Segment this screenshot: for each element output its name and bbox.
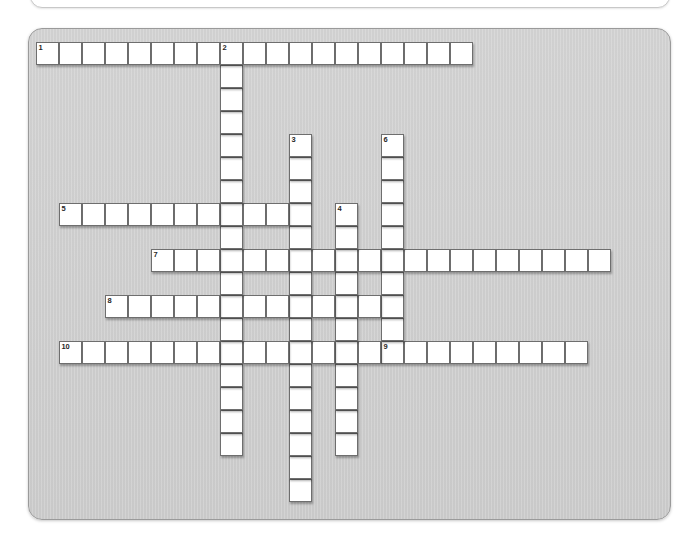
crossword-cell[interactable] bbox=[151, 295, 174, 318]
crossword-cell[interactable] bbox=[220, 65, 243, 88]
crossword-cell[interactable] bbox=[381, 249, 404, 272]
crossword-cell-numbered[interactable]: 4 bbox=[335, 203, 358, 226]
crossword-cell[interactable] bbox=[220, 295, 243, 318]
crossword-cell[interactable] bbox=[289, 364, 312, 387]
crossword-cell[interactable] bbox=[220, 249, 243, 272]
crossword-cell[interactable] bbox=[243, 203, 266, 226]
crossword-cell[interactable] bbox=[335, 295, 358, 318]
crossword-cell[interactable] bbox=[542, 341, 565, 364]
crossword-cell[interactable] bbox=[128, 341, 151, 364]
crossword-cell[interactable] bbox=[450, 341, 473, 364]
crossword-cell-numbered[interactable]: 9 bbox=[381, 341, 404, 364]
crossword-cell-numbered[interactable]: 2 bbox=[220, 42, 243, 65]
crossword-cell[interactable] bbox=[220, 433, 243, 456]
crossword-cell[interactable] bbox=[243, 249, 266, 272]
crossword-cell[interactable] bbox=[289, 157, 312, 180]
crossword-cell[interactable] bbox=[358, 249, 381, 272]
crossword-cell[interactable] bbox=[174, 42, 197, 65]
crossword-cell[interactable] bbox=[358, 341, 381, 364]
crossword-cell[interactable] bbox=[381, 272, 404, 295]
crossword-cell[interactable] bbox=[174, 203, 197, 226]
crossword-cell[interactable] bbox=[335, 433, 358, 456]
crossword-board[interactable]: 12345697810 bbox=[28, 28, 671, 520]
crossword-cell[interactable] bbox=[312, 42, 335, 65]
crossword-cell[interactable] bbox=[289, 456, 312, 479]
crossword-cell[interactable] bbox=[381, 295, 404, 318]
crossword-cell[interactable] bbox=[588, 249, 611, 272]
crossword-cell[interactable] bbox=[197, 249, 220, 272]
crossword-cell-numbered[interactable]: 1 bbox=[36, 42, 59, 65]
crossword-cell[interactable] bbox=[105, 341, 128, 364]
crossword-cell[interactable] bbox=[197, 341, 220, 364]
crossword-cell[interactable] bbox=[220, 272, 243, 295]
crossword-cell[interactable] bbox=[450, 249, 473, 272]
crossword-grid[interactable]: 12345697810 bbox=[29, 29, 671, 520]
crossword-cell-numbered[interactable]: 8 bbox=[105, 295, 128, 318]
crossword-cell[interactable] bbox=[381, 226, 404, 249]
crossword-cell[interactable] bbox=[519, 249, 542, 272]
crossword-cell[interactable] bbox=[312, 295, 335, 318]
crossword-cell[interactable] bbox=[243, 341, 266, 364]
crossword-cell[interactable] bbox=[427, 249, 450, 272]
crossword-cell[interactable] bbox=[335, 341, 358, 364]
crossword-cell[interactable] bbox=[105, 42, 128, 65]
crossword-cell[interactable] bbox=[266, 203, 289, 226]
crossword-cell[interactable] bbox=[289, 318, 312, 341]
crossword-cell[interactable] bbox=[289, 272, 312, 295]
crossword-cell[interactable] bbox=[151, 42, 174, 65]
crossword-cell[interactable] bbox=[174, 341, 197, 364]
crossword-cell[interactable] bbox=[266, 341, 289, 364]
crossword-cell[interactable] bbox=[197, 42, 220, 65]
crossword-cell[interactable] bbox=[473, 341, 496, 364]
crossword-cell[interactable] bbox=[450, 42, 473, 65]
crossword-cell[interactable] bbox=[289, 203, 312, 226]
crossword-cell[interactable] bbox=[151, 341, 174, 364]
crossword-cell[interactable] bbox=[289, 433, 312, 456]
crossword-cell[interactable] bbox=[220, 387, 243, 410]
crossword-cell[interactable] bbox=[335, 226, 358, 249]
crossword-cell[interactable] bbox=[473, 249, 496, 272]
crossword-cell[interactable] bbox=[220, 341, 243, 364]
crossword-cell[interactable] bbox=[266, 249, 289, 272]
crossword-cell[interactable] bbox=[335, 387, 358, 410]
crossword-cell[interactable] bbox=[404, 42, 427, 65]
crossword-cell[interactable] bbox=[335, 249, 358, 272]
crossword-cell[interactable] bbox=[335, 364, 358, 387]
crossword-cell[interactable] bbox=[266, 295, 289, 318]
crossword-cell[interactable] bbox=[105, 203, 128, 226]
crossword-cell[interactable] bbox=[312, 249, 335, 272]
crossword-cell[interactable] bbox=[220, 410, 243, 433]
crossword-cell[interactable] bbox=[220, 226, 243, 249]
crossword-cell[interactable] bbox=[243, 295, 266, 318]
crossword-cell[interactable] bbox=[220, 88, 243, 111]
crossword-cell[interactable] bbox=[358, 295, 381, 318]
crossword-cell[interactable] bbox=[220, 180, 243, 203]
crossword-cell[interactable] bbox=[174, 249, 197, 272]
crossword-cell[interactable] bbox=[197, 295, 220, 318]
crossword-cell[interactable] bbox=[151, 203, 174, 226]
crossword-cell[interactable] bbox=[289, 410, 312, 433]
crossword-cell[interactable] bbox=[174, 295, 197, 318]
crossword-cell[interactable] bbox=[335, 42, 358, 65]
crossword-cell[interactable] bbox=[243, 42, 266, 65]
crossword-cell[interactable] bbox=[220, 111, 243, 134]
crossword-cell[interactable] bbox=[519, 341, 542, 364]
crossword-cell[interactable] bbox=[220, 134, 243, 157]
crossword-cell-numbered[interactable]: 5 bbox=[59, 203, 82, 226]
crossword-cell[interactable] bbox=[335, 272, 358, 295]
crossword-cell[interactable] bbox=[289, 341, 312, 364]
crossword-cell[interactable] bbox=[381, 42, 404, 65]
crossword-cell[interactable] bbox=[404, 249, 427, 272]
crossword-cell[interactable] bbox=[381, 157, 404, 180]
crossword-cell[interactable] bbox=[289, 479, 312, 502]
crossword-cell[interactable] bbox=[59, 42, 82, 65]
crossword-cell[interactable] bbox=[82, 42, 105, 65]
crossword-cell-numbered[interactable]: 3 bbox=[289, 134, 312, 157]
crossword-cell[interactable] bbox=[128, 295, 151, 318]
crossword-cell[interactable] bbox=[381, 318, 404, 341]
crossword-cell[interactable] bbox=[312, 341, 335, 364]
crossword-cell[interactable] bbox=[427, 42, 450, 65]
crossword-cell[interactable] bbox=[220, 157, 243, 180]
crossword-cell[interactable] bbox=[289, 295, 312, 318]
crossword-cell[interactable] bbox=[381, 203, 404, 226]
